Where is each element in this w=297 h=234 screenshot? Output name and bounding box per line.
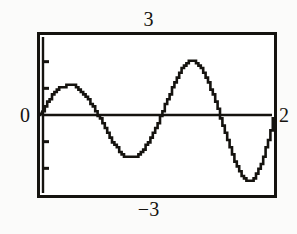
y-min-label: −3: [0, 199, 297, 219]
x-max-label: 2: [279, 105, 289, 125]
calculator-screenshot: 3 −3 0 2: [0, 0, 297, 234]
x-min-label: 0: [20, 105, 30, 125]
plot-viewport: [37, 32, 277, 198]
y-max-label: 3: [0, 9, 297, 29]
plot-canvas: [37, 32, 277, 198]
